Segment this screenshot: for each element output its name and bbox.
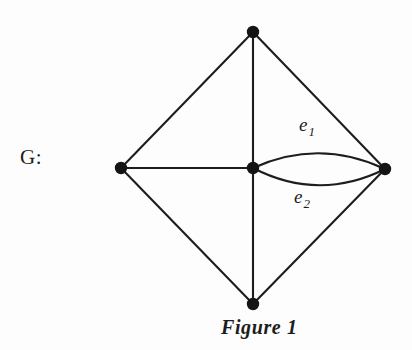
vertex-bottom: [247, 298, 259, 310]
vertex-right: [379, 163, 391, 175]
edge-label-e2: e2: [294, 186, 310, 212]
edge-left-bottom: [121, 168, 253, 304]
edge-label-e1: e1: [299, 114, 315, 140]
figure-caption: Figure 1: [221, 316, 297, 339]
edge-label-e2-subscript: 2: [302, 196, 310, 211]
graph-name-label: G:: [20, 145, 42, 170]
vertex-left: [115, 162, 127, 174]
edge-bottom-right: [253, 169, 385, 304]
edge-label-e1-subscript: 1: [307, 124, 315, 139]
edge-left-top: [121, 32, 253, 168]
vertex-top: [247, 26, 259, 38]
graph-drawing: [0, 0, 412, 350]
edge-e1-curve-up: [253, 153, 385, 169]
edge-top-right: [253, 32, 385, 169]
edge-e2-curve-down: [253, 168, 385, 185]
figure-container: G: e1 e2 Figure 1: [0, 0, 412, 350]
vertex-center: [247, 162, 259, 174]
